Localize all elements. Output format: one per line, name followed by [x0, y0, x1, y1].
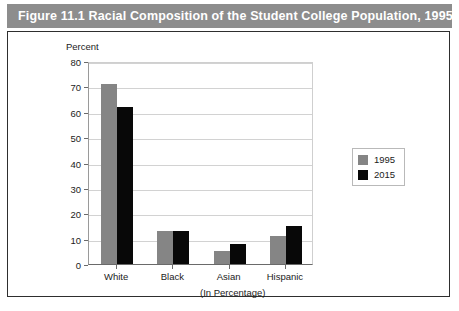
bar-asian-2015 — [230, 244, 246, 264]
legend-swatch-1995-icon — [358, 155, 368, 165]
y-axis-tick-label: 0 — [55, 260, 81, 271]
y-axis-tick-label: 50 — [55, 133, 81, 144]
y-axis-tick-label: 70 — [55, 82, 81, 93]
bar-white-2015 — [117, 107, 133, 264]
x-axis-tick-mark — [172, 265, 173, 269]
gridline — [89, 63, 312, 64]
legend-item-1995: 1995 — [358, 155, 395, 165]
page-title: Figure 11.1 Racial Composition of the St… — [7, 9, 459, 23]
bar-asian-1995 — [214, 251, 230, 264]
gridline — [89, 88, 312, 89]
legend-label-2015: 2015 — [374, 170, 395, 180]
x-axis-label-black: Black — [161, 271, 184, 282]
figure-container: Figure 11.1 Racial Composition of the St… — [0, 0, 459, 311]
bar-black-2015 — [173, 231, 189, 264]
x-axis-label-hispanic: Hispanic — [267, 271, 303, 282]
y-axis-tick-label: 10 — [55, 234, 81, 245]
y-axis-tick-label: 30 — [55, 183, 81, 194]
x-axis-label-asian: Asian — [217, 271, 241, 282]
y-axis-title: Percent — [66, 41, 99, 52]
bar-white-1995 — [101, 84, 117, 264]
x-axis-tick-mark — [229, 265, 230, 269]
bar-hispanic-2015 — [286, 226, 302, 264]
x-axis-tick-mark — [285, 265, 286, 269]
legend-swatch-2015-icon — [358, 170, 368, 180]
figure-title-band: Figure 11.1 Racial Composition of the St… — [7, 4, 452, 28]
bar-hispanic-1995 — [270, 236, 286, 264]
plot-area — [88, 62, 313, 265]
x-axis-title: (In Percentage) — [200, 287, 265, 298]
x-axis-label-white: White — [104, 271, 128, 282]
legend-item-2015: 2015 — [358, 170, 395, 180]
y-axis-tick-mark — [84, 265, 88, 266]
x-axis-tick-mark — [116, 265, 117, 269]
legend-label-1995: 1995 — [374, 155, 395, 165]
y-axis-tick-label: 60 — [55, 107, 81, 118]
y-axis-tick-label: 80 — [55, 57, 81, 68]
y-axis-tick-label: 20 — [55, 209, 81, 220]
y-axis-tick-label: 40 — [55, 158, 81, 169]
chart-legend: 1995 2015 — [352, 148, 405, 186]
bar-black-1995 — [157, 231, 173, 264]
